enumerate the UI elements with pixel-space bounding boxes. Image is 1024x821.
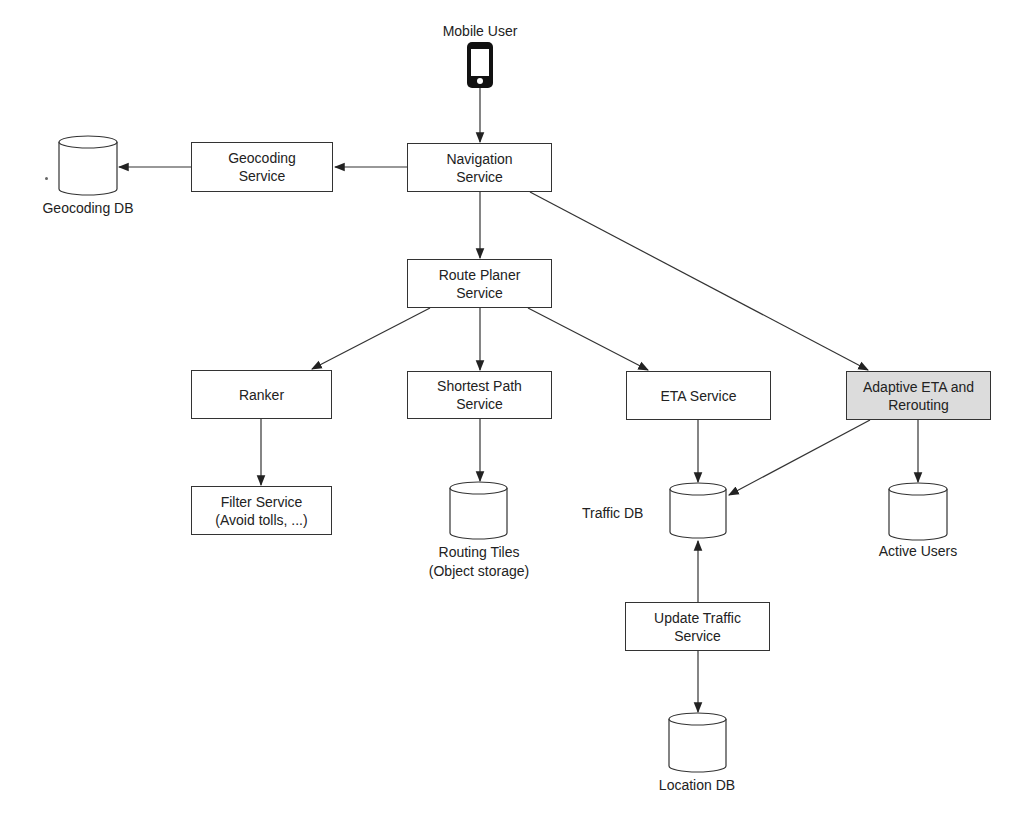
edge-route-to-ranker: [312, 308, 430, 369]
filter-service-line2: (Avoid tolls, ...): [215, 511, 307, 529]
route-planer-line1: Route Planer: [439, 266, 521, 284]
geocoding-service-box[interactable]: Geocoding Service: [191, 142, 333, 192]
stray-dot: [45, 177, 48, 180]
active-users-label: Active Users: [879, 542, 958, 560]
geocoding-service-line1: Geocoding: [228, 149, 296, 167]
shortest-path-service-box[interactable]: Shortest Path Service: [407, 371, 552, 419]
location-db-label: Location DB: [659, 776, 735, 794]
route-planer-line2: Service: [456, 284, 503, 302]
shortest-path-line2: Service: [456, 395, 503, 413]
database-traffic-db-icon: [670, 483, 726, 538]
update-traffic-line2: Service: [674, 627, 721, 645]
route-planer-service-box[interactable]: Route Planer Service: [407, 259, 552, 308]
routing-tiles-label-line2: (Object storage): [429, 562, 529, 580]
edge-navigation-to-adaptive: [530, 192, 868, 370]
navigation-service-line1: Navigation: [446, 150, 512, 168]
adaptive-eta-rerouting-box[interactable]: Adaptive ETA and Rerouting: [846, 371, 991, 420]
eta-service-box[interactable]: ETA Service: [626, 371, 771, 420]
edge-adaptive-to-traffic-db: [729, 420, 870, 495]
geocoding-db-label: Geocoding DB: [42, 199, 133, 217]
ranker-box[interactable]: Ranker: [191, 370, 332, 419]
navigation-service-line2: Service: [456, 168, 503, 186]
mobile-phone-icon: [467, 42, 493, 88]
update-traffic-line1: Update Traffic: [654, 609, 741, 627]
adaptive-eta-line2: Rerouting: [888, 396, 949, 414]
actor-label-mobile-user: Mobile User: [443, 22, 518, 40]
update-traffic-service-box[interactable]: Update Traffic Service: [625, 602, 770, 651]
database-active-users-icon: [889, 483, 947, 540]
ranker-label: Ranker: [239, 386, 284, 404]
database-geocoding-db-icon: [59, 136, 117, 195]
edge-route-to-eta: [528, 308, 648, 370]
database-routing-tiles-icon: [450, 482, 507, 539]
filter-service-box[interactable]: Filter Service (Avoid tolls, ...): [191, 486, 332, 535]
eta-service-label: ETA Service: [661, 387, 737, 405]
routing-tiles-label-line1: Routing Tiles: [439, 543, 520, 561]
database-location-db-icon: [669, 713, 726, 772]
navigation-service-box[interactable]: Navigation Service: [407, 143, 552, 192]
shortest-path-line1: Shortest Path: [437, 377, 522, 395]
geocoding-service-line2: Service: [239, 167, 286, 185]
filter-service-line1: Filter Service: [221, 493, 303, 511]
traffic-db-label: Traffic DB: [582, 504, 643, 522]
adaptive-eta-line1: Adaptive ETA and: [863, 378, 974, 396]
